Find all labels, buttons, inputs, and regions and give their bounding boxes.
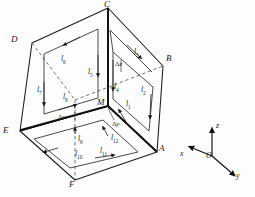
vertex-label-C: C: [104, 0, 110, 9]
axis-y-line: [212, 156, 234, 175]
loop-right: [113, 45, 153, 131]
axis-label-y: y: [236, 172, 240, 180]
arrow-l8: [58, 105, 76, 110]
dimension-label-delta-x: Δx: [58, 114, 66, 121]
loop-bottom: [34, 120, 138, 168]
figure-canvas: D C B E A F M l1 l2 l3 l4 l5 l6 l7 l8 l9…: [0, 0, 255, 197]
segment-label-l2: l2: [141, 86, 146, 96]
axis-label-z: z: [216, 122, 219, 130]
segment-label-l9: l9: [78, 135, 83, 145]
arrow-l6: [64, 37, 80, 45]
segment-label-l12: l12: [111, 134, 118, 144]
face-bottom-outline: [20, 106, 157, 180]
dimension-label-delta-z: Δz: [115, 61, 122, 68]
vertex-label-F: F: [69, 180, 75, 189]
vertex-label-A: A: [159, 144, 165, 153]
axis-label-origin: O: [206, 152, 212, 160]
segment-label-l10: l10: [75, 150, 82, 160]
segment-label-l8: l8: [63, 93, 68, 103]
edge-MA: [108, 106, 156, 151]
axis-triad: [190, 129, 234, 175]
vertex-label-M: M: [97, 98, 105, 107]
segment-label-l6: l6: [61, 55, 66, 65]
segment-label-l1: l1: [126, 100, 131, 110]
arrow-l12: [103, 127, 108, 136]
segment-label-l4: l4: [114, 83, 119, 93]
segment-label-l7: l7: [37, 86, 42, 96]
segment-label-l5: l5: [88, 68, 93, 78]
loop-bottom-path: [34, 120, 138, 168]
corner-edges-bold: [21, 9, 156, 151]
dimension-label-delta-y: Δy: [112, 121, 120, 128]
segment-label-l3: l3: [134, 48, 139, 58]
face-right-outline: [108, 8, 163, 152]
vertex-label-E: E: [3, 126, 9, 135]
segment-label-l11: l11: [100, 147, 107, 157]
axis-label-x: x: [180, 150, 184, 158]
vertex-label-B: B: [166, 54, 172, 63]
vertex-label-D: D: [11, 35, 18, 44]
